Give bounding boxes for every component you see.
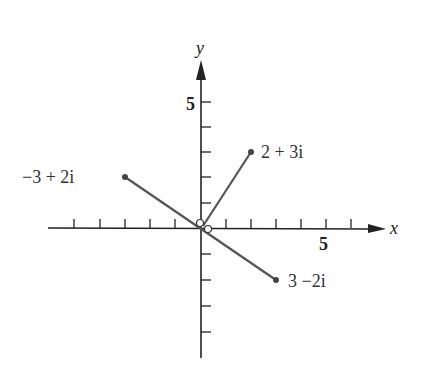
y-tick-label-5: 5 (186, 94, 195, 114)
x-axis-ticks (74, 219, 351, 228)
vector-2-plus-3i (203, 152, 251, 226)
point-3-minus-2i (273, 277, 279, 283)
x-axis-label: x (389, 218, 398, 238)
y-axis-arrow-icon (196, 60, 206, 80)
x-axis (48, 219, 386, 233)
x-axis-arrow-icon (368, 224, 386, 233)
y-axis-label: y (194, 38, 204, 58)
point-2-plus-3i (248, 149, 254, 155)
x-tick-label-5: 5 (319, 234, 328, 254)
point-label-3-minus-2i: 3 −2i (288, 271, 326, 291)
point-label-2-plus-3i: 2 + 3i (261, 142, 303, 162)
origin-marker-icon (197, 220, 204, 227)
origin-marker-icon (205, 226, 212, 233)
point-neg3-plus-2i (122, 174, 128, 180)
y-axis (196, 60, 211, 358)
point-label-neg3-plus-2i: −3 + 2i (22, 167, 74, 187)
complex-plane-figure: y x 5 5 2 + 3i −3 + 2i 3 −2i (0, 0, 425, 379)
